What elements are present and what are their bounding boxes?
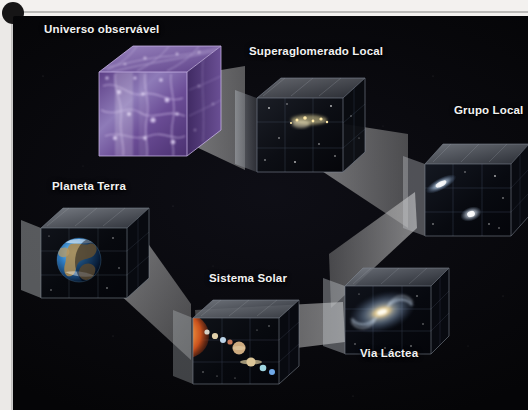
cube-planeta-terra xyxy=(19,202,159,314)
cosmic-scale-figure: Universo observável Superaglomerado Loca… xyxy=(0,0,528,410)
cube-superaglomerado-local xyxy=(235,68,365,188)
label-planeta-terra: Planeta Terra xyxy=(52,180,126,192)
label-universo-observavel: Universo observável xyxy=(44,23,159,35)
cube-sistema-solar xyxy=(173,292,315,396)
label-grupo-local: Grupo Local xyxy=(454,104,523,116)
page-top-rule xyxy=(20,11,528,13)
label-superaglomerado-local: Superaglomerado Local xyxy=(249,45,383,57)
cube-universo-observavel xyxy=(85,38,225,168)
label-via-lactea: Via Láctea xyxy=(360,347,418,359)
label-sistema-solar: Sistema Solar xyxy=(209,272,287,284)
cube-grupo-local xyxy=(399,136,528,256)
artwork-panel: Universo observável Superaglomerado Loca… xyxy=(13,16,528,410)
